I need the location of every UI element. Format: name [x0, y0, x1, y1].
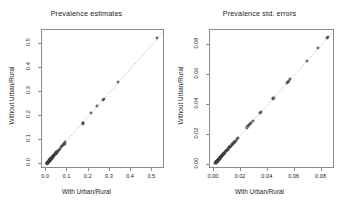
panel-title: Prevalence estimates	[0, 9, 173, 18]
scatter-point	[96, 105, 99, 108]
scatter-point	[259, 110, 262, 113]
figure-panel-pair: Prevalence estimates 0.00.10.20.30.40.50…	[0, 0, 346, 205]
scatter-point	[326, 35, 329, 38]
y-axis-tick	[206, 134, 209, 135]
y-axis-tick-label: 0.06	[193, 64, 199, 82]
plot-frame	[41, 29, 164, 168]
x-axis-tick-label: 0.00	[208, 173, 219, 179]
y-axis-tick	[38, 139, 41, 140]
x-axis-tick-label: 0.5	[147, 173, 155, 179]
x-axis-tick	[321, 168, 322, 171]
x-axis-tick-label: 0.08	[315, 173, 326, 179]
y-axis-tick	[206, 164, 209, 165]
panel-prevalence-std-errors: Prevalence std. errors 0.000.020.040.060…	[173, 0, 346, 205]
y-axis-tick	[38, 115, 41, 116]
y-axis-tick-label: 0.0	[25, 153, 31, 171]
y-axis-tick-label: 0.4	[25, 57, 31, 75]
scatter-point	[82, 121, 85, 124]
y-axis-tick	[38, 43, 41, 44]
x-axis-tick	[294, 168, 295, 171]
y-axis-tick-label: 0.3	[25, 81, 31, 99]
y-axis-tick	[38, 91, 41, 92]
scatter-point	[236, 136, 239, 139]
y-axis-tick-label: 0.00	[193, 154, 199, 172]
x-axis-tick	[151, 168, 152, 171]
scatter-point	[316, 47, 319, 50]
y-axis-tick-label: 0.2	[25, 105, 31, 123]
y-axis-title: Without Urban/Rural	[8, 56, 15, 136]
plot-frame	[209, 29, 334, 168]
x-axis-tick-label: 0.0	[41, 173, 49, 179]
y-axis-title: Without Urban/Rural	[177, 56, 184, 136]
x-axis-tick	[88, 168, 89, 171]
x-axis-title: With Urban/Rural	[173, 188, 346, 195]
scatter-point	[89, 112, 92, 115]
x-axis-tick	[240, 168, 241, 171]
x-axis-tick-label: 0.04	[261, 173, 272, 179]
scatter-point	[305, 59, 308, 62]
y-axis-tick	[206, 104, 209, 105]
x-axis-tick-label: 0.1	[63, 173, 71, 179]
x-axis-tick	[45, 168, 46, 171]
x-axis-tick-label: 0.2	[84, 173, 92, 179]
x-axis-tick-label: 0.02	[234, 173, 245, 179]
x-axis-tick	[66, 168, 67, 171]
scatter-point	[117, 80, 120, 83]
x-axis-tick-label: 0.3	[105, 173, 113, 179]
x-axis-tick	[109, 168, 110, 171]
x-axis-title: With Urban/Rural	[0, 188, 173, 195]
scatter-point	[289, 77, 292, 80]
x-axis-tick	[267, 168, 268, 171]
y-axis-tick	[38, 67, 41, 68]
y-axis-tick	[206, 74, 209, 75]
y-axis-tick-label: 0.04	[193, 94, 199, 112]
y-axis-tick-label: 0.02	[193, 124, 199, 142]
y-axis-tick	[206, 44, 209, 45]
y-axis-tick-label: 0.5	[25, 33, 31, 51]
x-axis-tick-label: 0.4	[126, 173, 134, 179]
x-axis-tick-label: 0.06	[288, 173, 299, 179]
panel-title: Prevalence std. errors	[173, 9, 346, 18]
scatter-point	[272, 96, 275, 99]
x-axis-tick	[130, 168, 131, 171]
scatter-point	[64, 141, 67, 144]
y-axis-tick-label: 0.08	[193, 34, 199, 52]
panel-prevalence-estimates: Prevalence estimates 0.00.10.20.30.40.50…	[0, 0, 173, 205]
y-axis-tick	[38, 163, 41, 164]
scatter-point	[251, 120, 254, 123]
x-axis-tick	[213, 168, 214, 171]
y-axis-tick-label: 0.1	[25, 129, 31, 147]
scatter-point	[155, 36, 158, 39]
scatter-point	[102, 97, 105, 100]
